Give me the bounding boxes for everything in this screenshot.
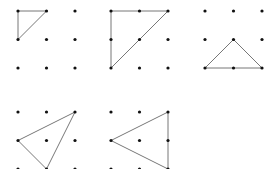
triangle — [18, 11, 47, 40]
grid-dot — [166, 167, 169, 169]
panel-2 — [109, 9, 169, 69]
triangle — [205, 40, 262, 69]
grid-dot — [16, 66, 19, 69]
grid-dot — [16, 110, 19, 113]
grid-dot — [232, 38, 235, 41]
panel-4 — [16, 110, 76, 169]
grid-dot — [166, 110, 169, 113]
grid-dot — [166, 38, 169, 41]
grid-dot — [109, 66, 112, 69]
grid-dot — [73, 110, 76, 113]
grid-dot — [16, 9, 19, 12]
grid-dot — [138, 110, 141, 113]
grid-dot — [232, 9, 235, 12]
grid-dot — [109, 9, 112, 12]
grid-dot — [73, 38, 76, 41]
grid-dot — [203, 66, 206, 69]
grid-dot — [16, 167, 19, 169]
grid-dot — [73, 66, 76, 69]
grid-dot — [203, 38, 206, 41]
grid-dot — [166, 139, 169, 142]
grid-dot — [138, 9, 141, 12]
grid-dot — [109, 167, 112, 169]
panel-1 — [16, 9, 76, 69]
grid-dot — [166, 9, 169, 12]
grid-dot — [73, 167, 76, 169]
grid-dot — [45, 110, 48, 113]
grid-dot — [45, 139, 48, 142]
grid-dot — [73, 139, 76, 142]
grid-dot — [109, 110, 112, 113]
grid-dot — [138, 38, 141, 41]
grid-dot — [109, 139, 112, 142]
panel-5 — [109, 110, 169, 169]
grid-dot — [138, 66, 141, 69]
grid-dot — [16, 139, 19, 142]
grid-dot — [203, 9, 206, 12]
grid-dot — [45, 38, 48, 41]
grid-dot — [16, 38, 19, 41]
grid-dot — [45, 9, 48, 12]
grid-dot — [109, 38, 112, 41]
grid-dot — [73, 9, 76, 12]
panel-3 — [203, 9, 263, 69]
grid-dot — [232, 66, 235, 69]
grid-dot — [260, 38, 263, 41]
dot-grid-diagram — [0, 0, 270, 169]
grid-dot — [260, 9, 263, 12]
grid-dot — [45, 66, 48, 69]
grid-dot — [260, 66, 263, 69]
grid-dot — [166, 66, 169, 69]
grid-dot — [138, 167, 141, 169]
grid-dot — [138, 139, 141, 142]
